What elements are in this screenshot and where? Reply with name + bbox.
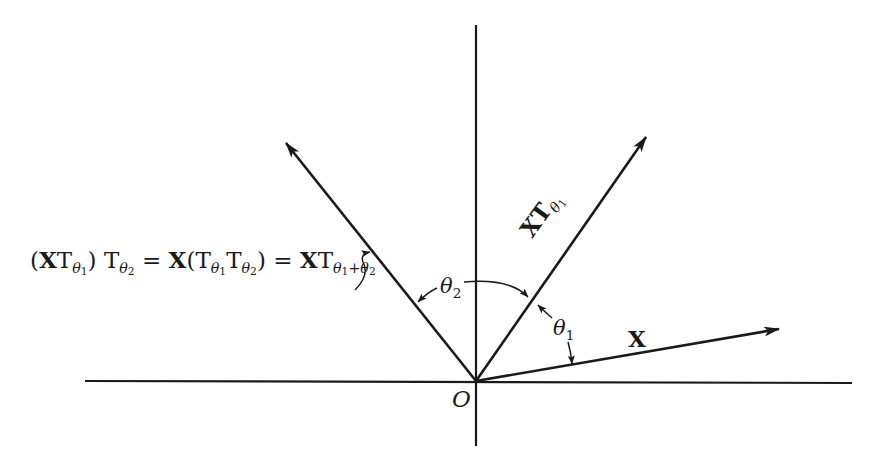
eq-equals: = [266,247,300,273]
eq-t: T [195,247,210,273]
theta2-label: θ2 [440,276,461,300]
composition-equation-label: (XTθ1) Tθ2 = X(Tθ1Tθ2) = XTθ1+θ2 [30,248,376,278]
eq-t: T [104,247,119,273]
eq-sub: θ1 [211,260,226,276]
eq-x: X [300,246,318,273]
eq-sub: θ1 [72,260,87,276]
eq-paren: ( [30,247,39,273]
eq-t: T [57,247,72,273]
theta1-arrow-upper [538,305,552,318]
eq-paren: ) [88,247,97,273]
theta2-arc [464,281,528,297]
theta1-arrow-lower [568,342,572,364]
eq-t: T [226,247,241,273]
horizontal-axis [85,381,852,383]
eq-x: X [39,246,57,273]
x-vector-label: X [628,327,646,350]
eq-x: X [169,246,187,273]
eq-equals: = [135,247,169,273]
eq-sub: θ1+θ2 [333,260,376,276]
rotation-diagram [0,0,881,465]
eq-sub: θ2 [241,260,256,276]
theta1-label: θ1 [553,318,574,342]
vector-xt-theta1 [476,137,646,381]
eq-t: T [318,247,333,273]
eq-sub: θ2 [119,260,134,276]
eq-paren: ) [257,247,266,273]
origin-label: O [452,388,471,411]
theta2-arrow-left [418,288,437,302]
